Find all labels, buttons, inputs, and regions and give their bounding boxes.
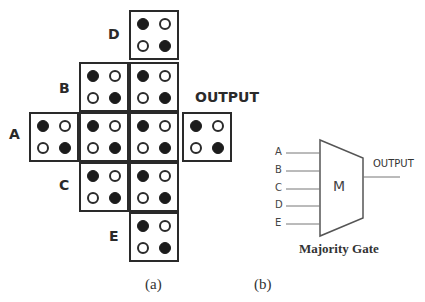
gate-title: Majority Gate [299,241,379,257]
gate-input-a: A [275,146,282,157]
gate-output-label: OUTPUT [373,158,414,169]
gate-symbol-label: M [333,178,345,194]
gate-input-c: C [275,182,282,193]
gate-input-b: B [275,164,282,175]
gate-input-e: E [275,217,281,228]
gate-input-d: D [275,199,283,210]
caption-b: (b) [254,276,272,293]
